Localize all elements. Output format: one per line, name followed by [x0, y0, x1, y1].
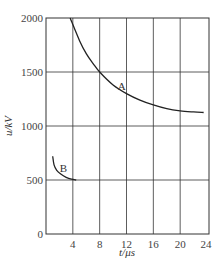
- y-tick-label: 0: [38, 228, 44, 240]
- x-tick-label: 8: [97, 238, 103, 250]
- x-tick-label: 20: [175, 238, 187, 250]
- tick-labels: 48121620240500100015002000: [21, 12, 212, 250]
- grid: [46, 18, 209, 234]
- y-tick-label: 1500: [21, 66, 44, 78]
- curve-label-b: B: [60, 162, 67, 174]
- x-axis-label: t/μs: [119, 246, 135, 258]
- x-tick-label: 16: [148, 238, 160, 250]
- x-tick-label: 4: [70, 238, 76, 250]
- curve-label-a: A: [118, 80, 126, 92]
- chart: 48121620240500100015002000 AB t/μs u/kV: [0, 0, 214, 265]
- curve-a: [70, 18, 203, 113]
- curves: [53, 18, 204, 180]
- x-tick-label: 24: [201, 238, 213, 250]
- y-tick-label: 2000: [21, 12, 44, 24]
- y-tick-label: 500: [27, 174, 44, 186]
- y-axis-label: u/kV: [2, 115, 14, 136]
- y-tick-label: 1000: [21, 120, 44, 132]
- annotations: AB: [60, 80, 126, 174]
